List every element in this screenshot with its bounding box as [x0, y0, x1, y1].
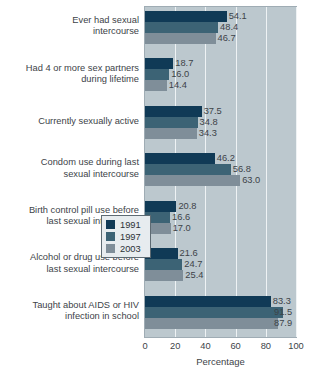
bar-group: 46.256.863.0 [145, 153, 296, 186]
legend-item: 1991 [106, 219, 146, 230]
bar-group: 54.148.446.7 [145, 11, 296, 44]
x-tick-label: 0 [142, 340, 147, 352]
bar-value-label: 48.4 [220, 22, 238, 33]
bar-value-label: 56.8 [233, 164, 251, 175]
bar-value-label: 21.6 [180, 248, 198, 259]
x-tick-label: 100 [288, 340, 304, 352]
bar-value-label: 20.8 [178, 201, 196, 212]
bar-value-label: 63.0 [242, 175, 260, 186]
chart-legend: 199119972003 [101, 215, 151, 258]
bar-value-label: 25.4 [185, 270, 203, 281]
gridline [296, 7, 297, 337]
bar-value-label: 17.0 [173, 223, 191, 234]
bar-2003-6 [145, 318, 278, 329]
bar-value-label: 34.8 [200, 117, 218, 128]
bar-1997-3 [145, 164, 231, 175]
legend-swatch-icon [106, 220, 115, 229]
bar-1991-0 [145, 11, 227, 22]
x-tick-label: 80 [261, 340, 271, 352]
category-label-axis: Ever had sexual intercourseHad 4 or more… [0, 6, 142, 338]
category-label: Ever had sexual intercourse [0, 15, 139, 38]
bar-value-label: 87.9 [274, 318, 292, 329]
x-tick-label: 60 [230, 340, 240, 352]
bar-value-label: 18.7 [175, 58, 193, 69]
category-label: Condom use during last sexual intercours… [0, 157, 139, 180]
bar-value-label: 16.6 [172, 212, 190, 223]
bar-2003-3 [145, 175, 240, 186]
bar-1997-6 [145, 307, 283, 318]
bar-value-label: 83.3 [273, 296, 291, 307]
bar-1997-2 [145, 117, 198, 128]
bar-value-label: 54.1 [229, 11, 247, 22]
x-axis-title: Percentage [144, 356, 297, 367]
legend-label: 1997 [120, 232, 141, 242]
bar-value-label: 34.3 [199, 128, 217, 139]
bar-2003-5 [145, 270, 183, 281]
bar-1991-2 [145, 106, 202, 117]
bar-value-label: 24.7 [184, 259, 202, 270]
x-axis-ticks: 020406080100 [144, 340, 297, 353]
bar-2003-2 [145, 128, 197, 139]
legend-swatch-icon [106, 232, 115, 241]
x-tick-label: 20 [170, 340, 180, 352]
bar-1991-4 [145, 201, 176, 212]
category-label: Taught about AIDS or HIV infection in sc… [0, 300, 139, 323]
category-label: Currently sexually active [0, 116, 139, 127]
bar-1997-0 [145, 22, 218, 33]
category-label: Had 4 or more sex partners during lifeti… [0, 63, 139, 86]
legend-label: 2003 [120, 244, 141, 254]
bar-group: 37.534.834.3 [145, 106, 296, 139]
bar-1991-6 [145, 296, 271, 307]
bar-1991-1 [145, 58, 173, 69]
bar-value-label: 14.4 [169, 80, 187, 91]
legend-item: 1997 [106, 231, 146, 242]
bar-2003-0 [145, 33, 216, 44]
bar-1991-3 [145, 153, 215, 164]
bar-2003-1 [145, 80, 167, 91]
bar-value-label: 37.5 [204, 106, 222, 117]
bar-value-label: 46.2 [217, 153, 235, 164]
bar-group: 20.816.617.0 [145, 201, 296, 234]
x-tick-label: 40 [200, 340, 210, 352]
legend-label: 1991 [120, 220, 141, 230]
plot-area: 54.148.446.718.716.014.437.534.834.346.2… [144, 6, 297, 338]
legend-item: 2003 [106, 243, 146, 254]
bar-value-label: 46.7 [218, 33, 236, 44]
legend-swatch-icon [106, 244, 115, 253]
bar-chart: Ever had sexual intercourseHad 4 or more… [0, 0, 320, 381]
bar-1997-1 [145, 69, 169, 80]
bar-value-label: 91.5 [274, 307, 292, 318]
bar-1997-5 [145, 259, 182, 270]
bar-value-label: 16.0 [171, 69, 189, 80]
bar-group: 18.716.014.4 [145, 58, 296, 91]
bar-group: 21.624.725.4 [145, 248, 296, 281]
bar-group: 83.391.587.9 [145, 296, 296, 329]
